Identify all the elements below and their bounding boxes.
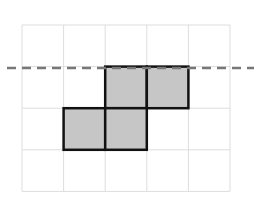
shaded-cell: [105, 108, 147, 150]
shaded-cell: [147, 67, 189, 109]
grid-diagram: [0, 0, 270, 205]
shaded-shape: [64, 67, 189, 150]
shaded-cell: [64, 108, 106, 150]
shaded-cell: [105, 67, 147, 109]
